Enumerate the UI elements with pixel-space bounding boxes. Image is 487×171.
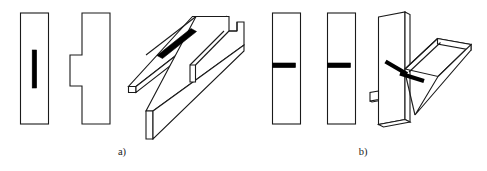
- slot-weld-bead: [32, 50, 36, 88]
- panel-b: b): [273, 12, 472, 158]
- caption-b-label: b): [359, 146, 368, 158]
- plate-outline-rect: [273, 13, 301, 124]
- panel-a: a): [21, 13, 245, 158]
- fillet-weld-bead: [328, 63, 351, 68]
- plate-outline-rect: [328, 13, 356, 124]
- fillet-weld-bead: [273, 63, 296, 68]
- vertical-plate-lug-tab: [370, 91, 379, 101]
- plate-with-lug-outline: [70, 13, 110, 124]
- view-b-side-view-plate-with-fillet-weld: [328, 13, 356, 124]
- rear-plate-web-face: [146, 111, 153, 139]
- front-plate-front-edge: [129, 87, 137, 93]
- view-a-front-view-plate-with-slot-weld: [21, 13, 49, 124]
- view-b-front-view-plate-with-fillet-weld: [273, 13, 301, 124]
- figure-canvas: a): [0, 0, 487, 171]
- view-b-isometric-view-tee-joint: [370, 12, 471, 127]
- view-a-side-view-plate-with-lug: [70, 13, 110, 124]
- notch-vertical-face: [190, 65, 196, 82]
- technical-drawing-figure: a): [0, 0, 487, 171]
- caption-a-label: a): [118, 146, 127, 158]
- view-a-isometric-view-lap-joint: [129, 17, 245, 140]
